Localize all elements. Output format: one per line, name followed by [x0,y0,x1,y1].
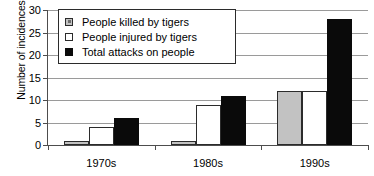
bar-total-1980s [221,96,246,146]
legend-item-total: Total attacks on people [65,44,230,59]
bar-injured-1980s [196,105,221,146]
legend-swatch-killed-icon [65,18,73,26]
y-tick-label: 15 [29,72,41,83]
bar-injured-1990s [302,91,327,145]
legend-item-injured: People injured by tigers [65,29,230,44]
legend-swatch-total-icon [65,48,73,56]
y-tick-label: 20 [29,50,41,61]
bar-killed-1980s [171,141,196,146]
bar-injured-1970s [89,127,114,145]
x-tick-mark [368,145,369,150]
legend-label-killed: People killed by tigers [82,16,189,28]
bar-total-1970s [114,118,139,145]
x-tick-label: 1970s [86,157,116,169]
y-tick-label: 0 [35,140,41,151]
legend-label-injured: People injured by tigers [82,31,197,43]
legend-label-total: Total attacks on people [82,46,195,58]
y-tick-label: 5 [35,117,41,128]
legend-item-killed: People killed by tigers [65,14,230,29]
bar-chart: Number of incidences 051015202530 1970s1… [0,0,374,176]
x-tick-mark [155,145,156,150]
y-tick-label: 30 [29,5,41,16]
bar-killed-1990s [277,91,302,145]
y-tick-label: 10 [29,95,41,106]
y-tick-label: 25 [29,27,41,38]
bar-killed-1970s [64,141,89,146]
x-tick-mark [261,145,262,150]
y-axis-title: Number of incidences [15,0,27,115]
legend-swatch-injured-icon [65,33,73,41]
bar-total-1990s [327,19,352,145]
x-tick-label: 1980s [193,157,223,169]
x-tick-label: 1990s [300,157,330,169]
x-tick-mark [48,145,49,150]
legend: People killed by tigers People injured b… [58,9,236,64]
